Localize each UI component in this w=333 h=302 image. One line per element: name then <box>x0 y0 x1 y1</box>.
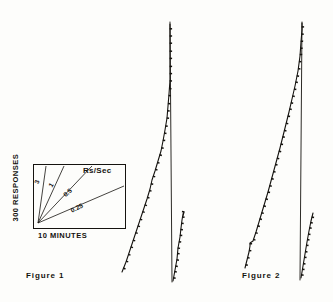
reinforcement-pip <box>294 89 296 90</box>
reinforcement-pip <box>273 171 275 172</box>
session-1-reset-line-line <box>170 22 172 282</box>
rate-calibration-inset <box>34 165 126 229</box>
reinforcement-pip <box>264 206 266 207</box>
reinforcement-pip <box>135 233 137 234</box>
reinforcement-pip <box>260 219 262 220</box>
reinforcement-pip <box>292 96 294 97</box>
reinforcement-pip <box>281 144 283 145</box>
session-2-cumulative-record <box>301 213 314 278</box>
figure-1-caption: Figure 1 <box>26 271 64 280</box>
reinforcement-pip <box>145 205 147 206</box>
reinforcement-pip <box>258 226 260 227</box>
session-2-cumulative-record <box>173 211 185 281</box>
inset-y-axis-label: 300 RESPONSES <box>11 160 20 222</box>
reinforcement-pip <box>140 219 142 220</box>
reinforcement-pip <box>247 258 249 259</box>
reinforcement-pip <box>128 254 130 255</box>
reinforcement-pip <box>253 239 255 240</box>
reinforcement-pip <box>289 109 291 110</box>
reinforcement-pip <box>133 240 135 241</box>
reinforcement-pip <box>255 233 257 234</box>
reinforcement-pip <box>284 130 286 131</box>
reinforcement-pip <box>182 211 184 212</box>
reinforcement-pip <box>266 199 268 200</box>
session-1-reset-line-line <box>300 22 302 280</box>
reinforcement-pip <box>275 164 277 165</box>
reinforcement-pip <box>268 192 270 193</box>
panel-1-record <box>122 22 185 282</box>
reinforcement-pip <box>286 123 288 124</box>
reinforcement-pip <box>282 137 284 138</box>
reinforcement-pip <box>131 247 133 248</box>
reinforcement-pip <box>126 261 128 262</box>
reinforcement-pip <box>123 268 125 269</box>
reinforcement-pip <box>261 213 263 214</box>
panel-2-record <box>245 22 314 280</box>
session-1-cumulative-record-pips <box>123 29 172 269</box>
figure-2-caption: Figure 2 <box>242 271 280 280</box>
session-1-cumulative-record-pips <box>245 27 304 265</box>
reinforcement-pip <box>160 155 162 156</box>
reinforcement-pip <box>312 217 314 218</box>
reinforcement-pip <box>245 265 247 266</box>
reinforcement-pip <box>142 212 144 213</box>
session-1-cumulative-record <box>122 24 172 272</box>
reinforcement-pip <box>153 176 155 177</box>
reinforcement-pip <box>277 158 279 159</box>
reinforcement-pip <box>291 103 293 104</box>
reinforcement-pip <box>288 116 290 117</box>
rate-units-header: Rs/Sec <box>83 166 111 175</box>
cumulative-record-panels <box>122 22 314 282</box>
session-1-reset-line <box>300 22 302 280</box>
reinforcement-pip <box>155 169 157 170</box>
figure-sheet: Rs/Sec 300 RESPONSES 10 MINUTES 310.50.2… <box>0 0 333 302</box>
reinforcement-pip <box>138 226 140 227</box>
reinforcement-pip <box>149 190 151 191</box>
reinforcement-pip <box>157 162 159 163</box>
reinforcement-pip <box>271 179 273 180</box>
session-1-reset-line <box>170 22 172 282</box>
cumulative-record-canvas <box>0 0 333 302</box>
inset-x-axis-label: 10 MINUTES <box>38 231 87 240</box>
session-1-cumulative-record-line <box>245 23 302 268</box>
reinforcement-pip <box>147 197 149 198</box>
reinforcement-pip <box>151 184 153 185</box>
session-1-cumulative-record <box>245 23 304 268</box>
reinforcement-pip <box>269 186 271 187</box>
reinforcement-pip <box>279 151 281 152</box>
session-2-cumulative-record-line <box>173 212 184 281</box>
